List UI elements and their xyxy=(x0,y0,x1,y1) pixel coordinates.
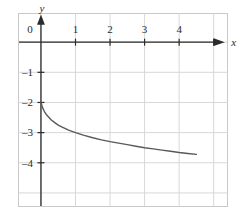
y-tick-label: –1 xyxy=(21,66,33,78)
x-axis-label: x xyxy=(230,36,236,48)
x-tick-label: 2 xyxy=(107,23,113,35)
chart-background xyxy=(0,0,244,222)
y-axis-label: y xyxy=(39,2,45,14)
y-tick-label: –4 xyxy=(21,157,34,169)
figure-container: x y 01234 –1–2–3–4 xyxy=(0,0,244,222)
x-tick-label: 0 xyxy=(27,23,33,35)
x-tick-label: 4 xyxy=(176,23,182,35)
coordinate-plane-chart: x y 01234 –1–2–3–4 xyxy=(0,0,244,222)
x-tick-label: 1 xyxy=(73,23,79,35)
x-tick-label: 3 xyxy=(142,23,148,35)
y-tick-label: –3 xyxy=(21,126,34,138)
y-tick-label: –2 xyxy=(21,96,33,108)
